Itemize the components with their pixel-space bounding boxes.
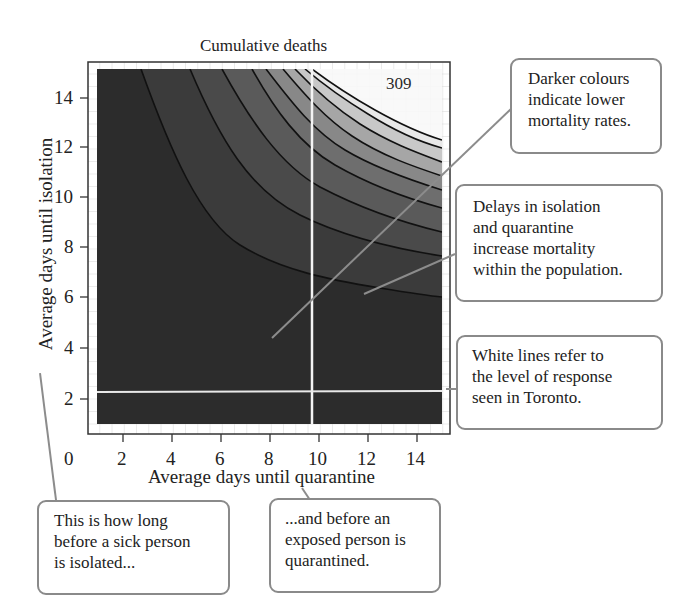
x-tick-14: 14: [406, 448, 425, 470]
max-value-label: 309: [386, 74, 412, 94]
callout-quarantine: ...and before an exposed person is quara…: [269, 498, 441, 593]
callout-line: ...and before an: [285, 508, 429, 529]
y-tick-8: 8: [64, 236, 74, 258]
y-tick-14: 14: [54, 87, 73, 109]
callout-line: mortality rates.: [528, 110, 650, 131]
callout-line: This is how long: [54, 510, 218, 531]
callout-isolation: This is how long before a sick person is…: [37, 500, 230, 595]
callout-line: quarantined.: [285, 550, 429, 571]
callout-line: indicate lower: [528, 89, 650, 110]
callout-line: Delays in isolation: [473, 196, 651, 217]
callout-line: increase mortality: [473, 238, 651, 259]
y-tick-6: 6: [64, 286, 74, 308]
contour-bands: [97, 69, 442, 424]
y-tick-4: 4: [64, 337, 74, 359]
chart-title: Cumulative deaths: [200, 36, 327, 56]
y-tick-2: 2: [64, 388, 74, 410]
callout-darker-colours: Darker colours indicate lower mortality …: [510, 58, 662, 154]
y-axis-label: Average days until isolation: [35, 124, 57, 364]
callout-line: within the population.: [473, 259, 651, 280]
callout-delays: Delays in isolation and quarantine incre…: [455, 184, 663, 302]
x-axis-label: Average days until quarantine: [148, 466, 375, 488]
callout-line: Darker colours: [528, 68, 650, 89]
callout-line: before a sick person: [54, 531, 218, 552]
callout-white-lines: White lines refer to the level of respon…: [456, 335, 663, 430]
x-tick-2: 2: [117, 448, 127, 470]
callout-line: the level of response: [472, 366, 651, 387]
origin-label: 0: [64, 448, 74, 470]
callout-line: exposed person is: [285, 529, 429, 550]
callout-line: and quarantine: [473, 217, 651, 238]
callout-line: is isolated...: [54, 552, 218, 573]
callout-line: White lines refer to: [472, 345, 651, 366]
callout-line: seen in Toronto.: [472, 387, 651, 408]
